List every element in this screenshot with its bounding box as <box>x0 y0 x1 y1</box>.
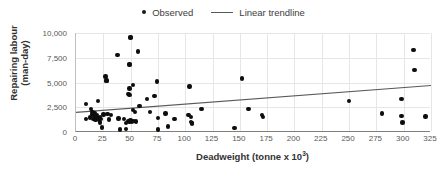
data-point <box>189 115 193 119</box>
data-point <box>187 84 191 88</box>
data-point <box>156 127 160 131</box>
x-tick-label: 225 <box>314 134 327 143</box>
data-point <box>152 94 156 98</box>
x-tick-label: 175 <box>259 134 272 143</box>
y-tick-label: 5,000 <box>47 78 67 87</box>
data-point <box>127 63 131 67</box>
x-tick-label: 75 <box>152 134 161 143</box>
data-point <box>128 36 132 40</box>
data-point <box>423 114 427 118</box>
y-axis-title-line1: Repairing labour <box>8 25 19 100</box>
x-axis-title: Deadweight (tonne x 103) <box>75 150 430 162</box>
gridline-vertical <box>431 33 432 131</box>
data-point <box>115 53 119 57</box>
data-point <box>232 126 236 130</box>
y-axis-tick-labels: 02,5005,0007,50010,000 <box>20 33 71 132</box>
data-point <box>347 99 351 103</box>
data-point <box>104 79 108 83</box>
data-point <box>380 111 384 115</box>
legend-line-marker-icon <box>211 12 233 13</box>
data-point <box>166 124 170 128</box>
data-point <box>136 49 140 53</box>
x-tick-label: 125 <box>205 134 218 143</box>
x-axis-title-tail: ) <box>306 151 309 162</box>
legend-item-observed: Observed <box>142 7 193 18</box>
y-tick-label: 2,500 <box>47 103 67 112</box>
data-point <box>399 114 403 118</box>
x-axis-title-base: Deadweight (tonne x 10 <box>196 151 302 162</box>
x-tick-label: 100 <box>178 134 191 143</box>
x-tick-label: 200 <box>287 134 300 143</box>
x-tick-label: 25 <box>98 134 107 143</box>
data-point <box>84 102 88 106</box>
observed-data-points <box>76 33 430 131</box>
x-axis-tick-labels: 0255075100125150175200225250275300325 <box>75 134 430 148</box>
data-point <box>96 99 100 103</box>
x-tick-label: 300 <box>396 134 409 143</box>
data-point <box>412 68 416 72</box>
x-tick-label: 50 <box>125 134 134 143</box>
data-point <box>127 86 131 90</box>
data-point <box>199 107 203 111</box>
plot-area <box>75 33 430 132</box>
data-point <box>107 117 111 121</box>
data-point <box>399 97 403 101</box>
data-point <box>246 107 250 111</box>
data-point <box>134 119 138 123</box>
legend-label-observed: Observed <box>152 7 193 18</box>
data-point <box>98 120 102 124</box>
data-point <box>261 115 265 119</box>
data-point <box>145 97 149 101</box>
legend-label-linear-trendline: Linear trendline <box>239 7 305 18</box>
y-tick-label: 7,500 <box>47 53 67 62</box>
x-tick-label: 325 <box>423 134 436 143</box>
scatter-chart: Observed Linear trendline Repairing labo… <box>0 0 447 173</box>
data-point <box>163 111 167 115</box>
data-point <box>411 48 415 52</box>
data-point <box>137 104 141 108</box>
data-point <box>155 79 159 83</box>
data-point <box>240 76 244 80</box>
data-point <box>133 110 137 114</box>
data-point <box>131 83 135 87</box>
data-point <box>127 93 131 97</box>
data-point <box>400 120 404 124</box>
legend-dot-marker-icon <box>142 10 146 14</box>
y-tick-label: 10,000 <box>43 29 67 38</box>
data-point <box>172 117 176 121</box>
data-point <box>116 116 120 120</box>
data-point <box>124 127 128 131</box>
data-point <box>99 117 103 121</box>
data-point <box>148 110 152 114</box>
data-point <box>109 113 113 117</box>
y-tick-label: 0 <box>63 128 67 137</box>
x-tick-label: 0 <box>73 134 77 143</box>
data-point <box>118 127 122 131</box>
x-tick-label: 275 <box>369 134 382 143</box>
x-tick-label: 250 <box>341 134 354 143</box>
x-tick-label: 150 <box>232 134 245 143</box>
data-point <box>156 116 160 120</box>
data-point <box>100 125 104 129</box>
legend-item-linear-trendline: Linear trendline <box>211 7 305 18</box>
chart-legend: Observed Linear trendline <box>0 2 447 22</box>
